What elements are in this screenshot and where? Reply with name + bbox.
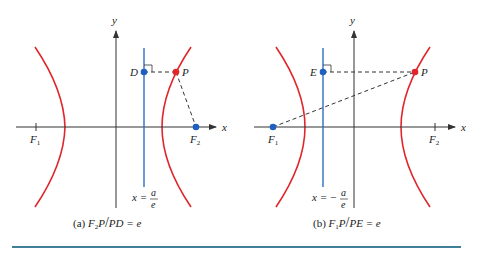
- directrix-equation-num: a: [341, 187, 346, 198]
- point-E: [320, 69, 327, 76]
- panel-a: x y D P F1 F2 x = a e (a) F2P/PD = e: [16, 14, 227, 231]
- directrix-equation-lhs: x = −: [311, 191, 337, 203]
- x-axis-label: x: [460, 121, 466, 133]
- panel-b: x y E P F1 F2 x = − a e (b) F1P/PE = e: [254, 14, 466, 231]
- x-axis-label: x: [221, 121, 227, 133]
- directrix-equation-den: e: [341, 199, 346, 210]
- label-F1: F1: [29, 133, 41, 147]
- caption-b: (b) F1P/PE = e: [313, 215, 381, 231]
- y-axis-label: y: [111, 14, 117, 26]
- label-F2: F2: [189, 133, 201, 147]
- hyperbola-focus-directrix-diagram: x y D P F1 F2 x = a e (a) F2P/PD = e x y…: [0, 0, 478, 255]
- label-D: D: [129, 66, 138, 78]
- caption-a: (a) F2P/PD = e: [73, 215, 141, 231]
- y-axis-label: y: [349, 14, 355, 26]
- label-E: E: [309, 66, 317, 78]
- point-P: [173, 69, 180, 76]
- directrix-equation-num: a: [151, 187, 156, 198]
- point-P: [412, 69, 419, 76]
- label-P: P: [420, 66, 428, 78]
- focus-F1-point: [270, 124, 277, 131]
- directrix-equation-lhs: x =: [131, 191, 147, 203]
- point-D: [141, 69, 148, 76]
- dashed-PF2: [176, 72, 196, 127]
- label-F1: F1: [267, 133, 279, 147]
- directrix-equation-den: e: [151, 199, 156, 210]
- focus-F2-point: [193, 124, 200, 131]
- label-F2: F2: [428, 133, 440, 147]
- label-P: P: [181, 66, 189, 78]
